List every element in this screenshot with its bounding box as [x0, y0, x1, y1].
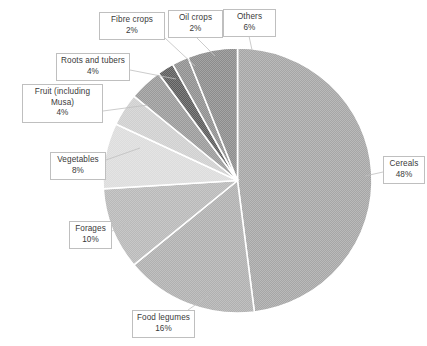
- callout-fibre-crops-percent: 2%: [103, 26, 161, 37]
- callout-cereals[interactable]: Cereals 48%: [383, 156, 425, 184]
- callout-cereals-label: Cereals: [387, 159, 421, 170]
- callout-others[interactable]: Others 6%: [223, 9, 276, 37]
- callout-roots-and-tubers-label: Roots and tubers: [60, 56, 126, 67]
- callout-roots-and-tubers[interactable]: Roots and tubers 4%: [56, 53, 130, 81]
- callout-food-legumes[interactable]: Food legumes 16%: [132, 310, 195, 338]
- callout-forages[interactable]: Forages 10%: [69, 221, 112, 249]
- callout-vegetables-label: Vegetables: [54, 155, 102, 166]
- callout-fruit[interactable]: Fruit (including Musa) 4%: [22, 84, 103, 123]
- callout-cereals-percent: 48%: [387, 170, 421, 181]
- callout-others-percent: 6%: [227, 23, 272, 34]
- callout-fibre-crops-label: Fibre crops: [103, 15, 161, 26]
- callout-fruit-label: Fruit (including Musa): [26, 87, 99, 108]
- callout-oil-crops-label: Oil crops: [172, 13, 219, 24]
- callout-fibre-crops[interactable]: Fibre crops 2%: [99, 12, 165, 40]
- callout-roots-and-tubers-percent: 4%: [60, 67, 126, 78]
- callout-oil-crops[interactable]: Oil crops 2%: [168, 10, 223, 38]
- callout-food-legumes-label: Food legumes: [136, 313, 191, 324]
- callout-forages-label: Forages: [73, 224, 108, 235]
- pie-slices-texture: [103, 48, 372, 313]
- callout-vegetables-percent: 8%: [54, 166, 102, 177]
- pie-slice-texture-cereals: [238, 48, 373, 312]
- callout-forages-percent: 10%: [73, 235, 108, 246]
- callout-vegetables[interactable]: Vegetables 8%: [50, 152, 106, 180]
- callout-others-label: Others: [227, 12, 272, 23]
- callout-fruit-percent: 4%: [26, 108, 99, 119]
- callout-oil-crops-percent: 2%: [172, 24, 219, 35]
- callout-food-legumes-percent: 16%: [136, 324, 191, 335]
- pie-chart-page: Fibre crops 2% Oil crops 2% Others 6% Ro…: [0, 0, 427, 346]
